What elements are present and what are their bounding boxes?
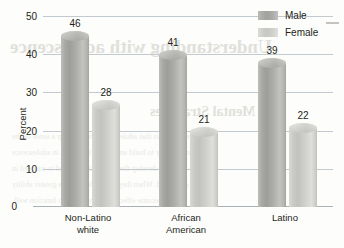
bar-value-label: 41 (167, 37, 178, 48)
legend-item-male[interactable]: Male (258, 8, 318, 22)
bar-body (258, 63, 286, 207)
bar-female-african-american[interactable]: 21 (190, 127, 218, 207)
bar-male-non-latino-white[interactable]: 46 (61, 31, 89, 207)
bar-female-non-latino-white[interactable]: 28 (92, 100, 120, 207)
legend-label-male: Male (285, 10, 307, 21)
plot-area: 50 40 30 20 10 0 46 28 (43, 16, 333, 207)
legend-swatch-male-icon (258, 11, 278, 20)
bar-cap-shadow (190, 127, 218, 137)
bar-value-label: 28 (100, 87, 111, 98)
bar-value-label: 21 (198, 114, 209, 125)
y-tick-label: 50 (26, 11, 37, 22)
legend-item-female[interactable]: Female (258, 25, 318, 39)
bar-female-latino[interactable]: 22 (289, 123, 317, 207)
x-tick-label-african-american: African American (143, 212, 229, 235)
scan-stray-mark (326, 22, 339, 24)
bar-body (159, 55, 187, 207)
legend-label-female: Female (285, 27, 318, 38)
legend-swatch-female-icon (258, 28, 278, 37)
y-tick-label: 40 (26, 49, 37, 60)
y-tick-label: 20 (26, 125, 37, 136)
bar-cap-shadow (289, 123, 317, 133)
legend: Male Female (258, 8, 318, 42)
bar-value-label: 46 (69, 18, 80, 29)
bar-value-label: 39 (266, 45, 277, 56)
bar-cap-shadow (92, 100, 120, 110)
bar-cap-shadow (258, 58, 286, 68)
x-tick-label-latino: Latino (242, 212, 328, 224)
bar-body (289, 128, 317, 207)
bar-chart: Percent 50 40 30 20 10 0 46 (0, 0, 344, 248)
bar-value-label: 22 (297, 110, 308, 121)
bar-body (61, 36, 89, 207)
y-tick-label: 30 (26, 87, 37, 98)
bar-body (92, 105, 120, 207)
bar-body (190, 132, 218, 207)
y-tick-label: 0 (11, 201, 17, 212)
bar-male-latino[interactable]: 39 (258, 58, 286, 207)
y-tick-label: 10 (26, 163, 37, 174)
bar-male-african-american[interactable]: 41 (159, 50, 187, 207)
x-tick-label-non-latino-white: Non-Latino white (45, 212, 131, 235)
